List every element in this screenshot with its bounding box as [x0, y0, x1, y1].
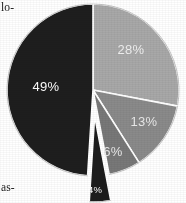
pie-slice-label: 4% — [88, 184, 102, 195]
pie-slice-label: 28% — [118, 42, 145, 57]
pie-slice-group — [7, 4, 179, 202]
pie-slice-label: 6% — [103, 144, 123, 159]
pie-slice-label: 49% — [33, 79, 60, 94]
pie-slice-label: 13% — [131, 114, 158, 129]
pie-chart-svg: 28%13%6%4%49% — [0, 0, 186, 203]
pie-chart-figure: lo- as- 28%13%6%4%49% — [0, 0, 186, 203]
